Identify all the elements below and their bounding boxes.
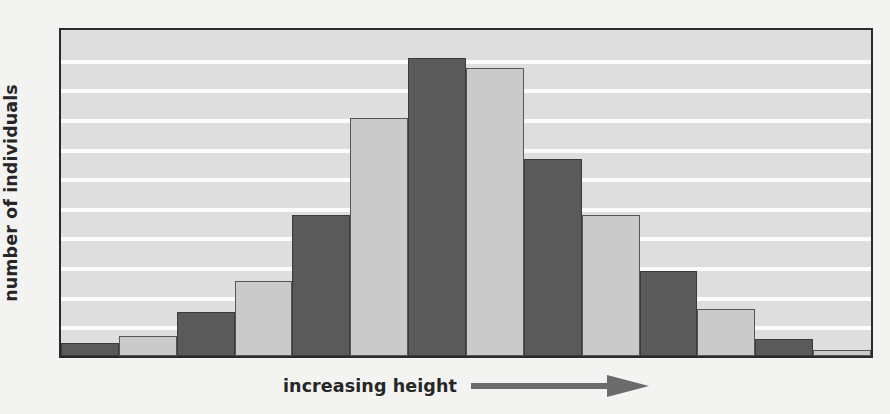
histogram-bar (350, 118, 408, 356)
x-axis-label-group: increasing height (59, 366, 873, 406)
histogram-bar (235, 281, 293, 356)
histogram-figure: number of individuals increasing height (0, 0, 890, 414)
histogram-bar (61, 343, 119, 356)
histogram-bar (582, 215, 640, 356)
bar-series (61, 30, 871, 356)
plot-area (59, 28, 873, 358)
histogram-bar (813, 350, 871, 356)
arrow-right-icon (471, 375, 649, 397)
histogram-bar (640, 271, 698, 356)
histogram-bar (292, 215, 350, 356)
histogram-bar (408, 58, 466, 356)
histogram-bar (466, 68, 524, 356)
histogram-bar (755, 339, 813, 356)
y-axis-label: number of individuals (0, 28, 22, 358)
histogram-bar (177, 312, 235, 356)
histogram-bar (119, 336, 177, 356)
histogram-bar (697, 309, 755, 356)
histogram-bar (524, 159, 582, 356)
x-axis-label: increasing height (283, 376, 457, 396)
